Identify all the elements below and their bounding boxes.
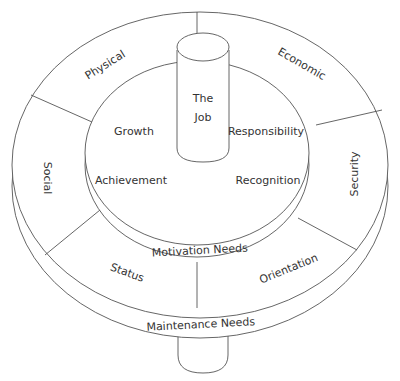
inner-segment-achievement: Achievement	[95, 174, 168, 187]
core-label-line1: The	[192, 92, 214, 105]
core-label-line2: Job	[194, 111, 212, 124]
core-cylinder-body	[177, 50, 229, 162]
inner-segment-recognition: Recognition	[236, 174, 301, 187]
motivation-maintenance-diagram: The Job Growth Responsibility Achievemen…	[0, 0, 400, 381]
inner-segment-growth: Growth	[114, 125, 154, 138]
inner-segment-responsibility: Responsibility	[228, 125, 305, 138]
outer-segment-security: Security	[348, 151, 361, 197]
column-base	[178, 335, 228, 373]
outer-segment-social: Social	[41, 162, 54, 195]
core-cylinder-top	[177, 33, 229, 61]
